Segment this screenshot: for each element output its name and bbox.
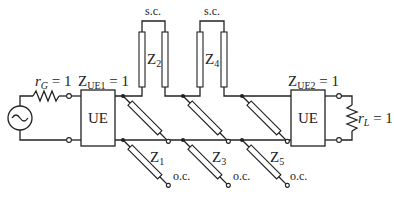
open-terminal xyxy=(166,139,170,143)
rg-label: rG = 1 xyxy=(35,73,72,91)
z1-termination: o.c. xyxy=(173,169,190,183)
z5-termination: o.c. xyxy=(290,169,307,183)
source-bottom-wire xyxy=(20,130,66,140)
z3-termination: o.c. xyxy=(233,169,250,183)
open-terminal xyxy=(226,139,230,143)
port-terminal xyxy=(67,94,72,99)
ue1-label: ZUE1 = 1 xyxy=(78,73,129,91)
ac-source xyxy=(8,106,32,130)
port-terminal xyxy=(337,138,342,143)
open-terminal xyxy=(285,139,289,143)
stub-z3-upper xyxy=(183,96,230,143)
open-terminal xyxy=(285,183,289,187)
z1-label: Z1 xyxy=(150,149,164,167)
rl-label: rL = 1 xyxy=(358,110,393,128)
z2-termination: s.c. xyxy=(145,4,161,18)
stub-z1-upper xyxy=(123,96,170,143)
z5-label: Z5 xyxy=(270,149,284,167)
open-terminal xyxy=(166,183,170,187)
ue2-box-text: UE xyxy=(298,110,318,126)
z2-label: Z2 xyxy=(147,51,161,69)
ue2-label: ZUE2 = 1 xyxy=(288,73,339,91)
z4-termination: s.c. xyxy=(204,4,220,18)
open-terminal xyxy=(226,183,230,187)
z3-label: Z3 xyxy=(212,149,226,167)
sine-wave-icon xyxy=(12,115,28,121)
resistor-rl xyxy=(347,105,357,131)
port-terminal xyxy=(67,138,72,143)
port-terminal xyxy=(337,94,342,99)
z4-label: Z4 xyxy=(205,51,219,69)
circuit-diagram: UE UE rG = 1 ZUE1 = 1 ZUE2 = 1 rL = 1 Z2… xyxy=(0,0,394,211)
resistor-rg xyxy=(33,91,59,101)
ue1-box-text: UE xyxy=(88,110,108,126)
stub-z5-upper xyxy=(242,96,289,143)
source-top-wire xyxy=(20,96,33,106)
